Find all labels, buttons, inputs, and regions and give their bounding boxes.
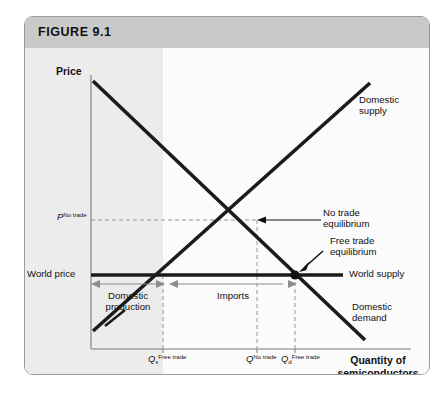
domestic-production-label: Domestic production [93,290,163,312]
y-tick-label-world-price: World price [27,269,75,280]
free-trade-equilibrium-line2: equilibrium [330,246,376,257]
no-trade-leader-arrowhead [257,216,266,223]
imports-arrow-right [288,280,297,288]
x-tick-label-q-no-trade: QNo trade [246,354,277,365]
domestic-supply-label-line2: supply [359,105,387,116]
no-trade-equilibrium-line2: equilibrium [323,218,369,229]
figure-title: FIGURE 9.1 [38,25,112,39]
free-trade-equilibrium-point [290,270,299,279]
x-tick-qs-superscript: Free trade [158,353,186,360]
y-tick-label-p-no-trade: PNo trade [57,212,87,223]
x-tick-label-qd-free-trade: QdFree trade [281,354,320,366]
imports-label: Imports [203,290,263,301]
free-trade-leader-arrowhead [299,261,309,272]
x-axis-title-line2: semiconductors [337,367,418,375]
x-tick-qn-superscript: No trade [253,353,276,360]
figure-frame: FIGURE 9.1 [24,16,430,375]
figure-page: FIGURE 9.1 [0,0,438,403]
x-axis-title: Quantity of semiconductors [325,354,430,375]
x-axis-title-line1: Quantity of [350,354,405,366]
domestic-demand-label-line1: Domestic [352,301,392,312]
plot-area: Price PNo trade World price Domestic sup… [25,48,430,374]
free-trade-equilibrium-line1: Free trade [330,235,374,246]
x-tick-qd-superscript: Free trade [292,353,320,360]
y-tick-p-superscript: No trade [63,211,86,218]
domestic-demand-label-line2: demand [352,312,387,323]
y-axis-title: Price [56,66,82,78]
no-trade-equilibrium-label: No trade equilibrium [323,208,369,229]
domestic-production-line1: Domestic [108,290,148,301]
domestic-demand-label: Domestic demand [352,302,392,323]
free-trade-equilibrium-label: Free trade equilibrium [330,236,376,257]
x-tick-label-qs-free-trade: QsFree trade [148,354,186,366]
domestic-supply-label: Domestic supply [359,95,399,116]
world-supply-label: World supply [349,269,404,280]
domestic-production-line2: production [106,301,151,312]
no-trade-equilibrium-line1: No trade [323,207,360,218]
imports-arrow-left [169,280,178,288]
shaded-region [25,48,163,374]
domestic-supply-label-line1: Domestic [359,94,399,105]
